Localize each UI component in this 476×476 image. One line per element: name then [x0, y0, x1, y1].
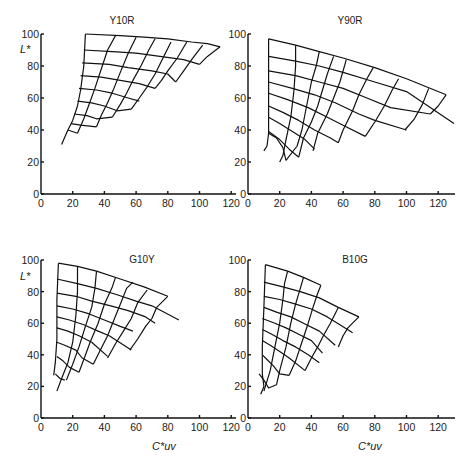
- y-tick-label: 40: [234, 124, 246, 136]
- chroma-curve: [264, 39, 269, 151]
- x-tick-label: 120: [429, 421, 447, 433]
- y-tick-label: 60: [27, 317, 39, 329]
- x-tick-label: 0: [245, 197, 251, 209]
- value-curve: [84, 50, 200, 64]
- x-tick-label: 100: [398, 421, 416, 433]
- value-curve: [68, 130, 78, 133]
- panel-title: Y10R: [109, 15, 134, 26]
- x-tick-label: 20: [67, 421, 79, 433]
- chroma-curve: [405, 88, 429, 130]
- chroma-curve: [200, 47, 221, 65]
- x-tick-label: 0: [245, 421, 251, 433]
- y-tick-label: 80: [234, 60, 246, 72]
- x-tick-label: 60: [130, 197, 142, 209]
- value-curve: [269, 117, 315, 149]
- figure: Y10R L* 020406080100020406080100120 Y90R…: [0, 0, 476, 476]
- y-tick-label: 80: [27, 60, 39, 72]
- y-tick-label: 20: [234, 156, 246, 168]
- value-curve: [259, 374, 276, 388]
- x-tick-label: 40: [306, 421, 318, 433]
- chroma-curve: [264, 271, 288, 391]
- y-tick-label: 40: [234, 349, 246, 361]
- x-tick-label: 120: [222, 197, 240, 209]
- value-curve: [264, 296, 353, 332]
- panel-y90r: Y90R 020406080100020406080100120: [228, 15, 455, 209]
- axes: 020406080100020406080100120: [21, 254, 240, 433]
- y-tick-label: 40: [27, 124, 39, 136]
- munsell-grid: [259, 265, 359, 395]
- x-tick-label: 20: [274, 421, 286, 433]
- value-curve: [57, 356, 79, 372]
- munsell-grid: [264, 39, 454, 162]
- value-curve: [58, 263, 167, 296]
- munsell-grid: [62, 34, 221, 144]
- x-tick-label: 40: [306, 197, 318, 209]
- x-tick-label: 0: [38, 421, 44, 433]
- x-tick-label: 0: [38, 197, 44, 209]
- x-tick-label: 100: [398, 197, 416, 209]
- x-tick-label: 100: [191, 421, 209, 433]
- y-tick-label: 100: [21, 254, 39, 266]
- chroma-curve: [93, 282, 133, 364]
- y-axis-label: L*: [20, 43, 31, 55]
- value-curve: [269, 71, 431, 114]
- chroma-curve: [430, 95, 446, 114]
- y-tick-label: 100: [21, 28, 39, 40]
- x-tick-label: 40: [99, 421, 111, 433]
- panel-title: G10Y: [129, 254, 155, 265]
- x-tick-label: 100: [191, 197, 209, 209]
- chroma-curve: [54, 263, 59, 375]
- panel-title: Y90R: [337, 15, 362, 26]
- y-tick-label: 80: [27, 286, 39, 298]
- value-curve: [74, 114, 112, 119]
- y-tick-label: 100: [228, 28, 246, 40]
- value-curve: [57, 279, 179, 320]
- x-tick-label: 20: [67, 197, 79, 209]
- panel-y10r: Y10R L* 020406080100020406080100120: [20, 15, 240, 209]
- x-tick-label: 60: [130, 421, 142, 433]
- x-tick-label: 80: [369, 197, 381, 209]
- x-tick-label: 60: [337, 421, 349, 433]
- chroma-curve: [261, 265, 266, 395]
- value-curve: [57, 306, 133, 331]
- value-curve: [265, 265, 321, 286]
- y-tick-label: 100: [228, 254, 246, 266]
- chroma-curve: [338, 317, 359, 347]
- value-curve: [71, 124, 96, 127]
- panel-title: B10G: [342, 254, 368, 265]
- value-curve: [85, 34, 220, 47]
- chroma-curve: [280, 45, 296, 162]
- value-curve: [264, 307, 335, 345]
- panel-b10g: B10G C*uv 020406080100020406080100120: [228, 254, 455, 452]
- munsell-grid: [54, 263, 179, 391]
- x-tick-label: 60: [337, 197, 349, 209]
- y-axis-label: L*: [20, 270, 31, 282]
- value-curve: [262, 319, 322, 354]
- y-tick-label: 60: [234, 317, 246, 329]
- x-tick-label: 120: [222, 421, 240, 433]
- axes: 020406080100020406080100120: [228, 28, 455, 209]
- x-tick-label: 40: [99, 197, 111, 209]
- x-tick-label: 120: [429, 197, 447, 209]
- x-tick-label: 80: [162, 421, 174, 433]
- chroma-curve: [299, 56, 334, 157]
- y-tick-label: 80: [234, 286, 246, 298]
- y-tick-label: 20: [27, 156, 39, 168]
- y-tick-label: 20: [27, 380, 39, 392]
- chroma-curve: [277, 277, 304, 384]
- y-tick-label: 20: [234, 380, 246, 392]
- x-axis-label: C*uv: [358, 440, 383, 452]
- x-axis-label: C*uv: [152, 440, 177, 452]
- x-tick-label: 20: [274, 197, 286, 209]
- value-curve: [262, 355, 289, 376]
- y-tick-label: 60: [27, 92, 39, 104]
- panel-g10y: G10Y L* C*uv 020406080100020406080100120: [20, 254, 240, 452]
- y-tick-label: 40: [27, 349, 39, 361]
- y-tick-label: 60: [234, 92, 246, 104]
- axes: 020406080100020406080100120: [21, 28, 240, 209]
- x-tick-label: 80: [369, 421, 381, 433]
- x-tick-label: 80: [162, 197, 174, 209]
